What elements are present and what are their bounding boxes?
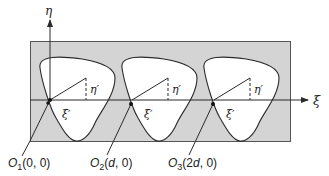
origin-label-1: O1(0, 0) [8,156,50,172]
origin-dot-3 [211,102,215,106]
origin-dot-2 [129,102,133,106]
leader-line-1b [22,141,30,156]
origin-dot-1 [48,98,52,102]
local-xi-label-2: ξ′ [144,108,153,121]
local-xi-label-1: ξ′ [62,108,71,121]
xi-axis-label: ξ [313,93,321,108]
local-eta-label-2: η′ [172,83,182,96]
eta-axis-label: η [45,4,53,18]
periodic-cell-diagram: η ξ η′ ξ′ η′ ξ′ η′ ξ′ O1(0, 0) O2(d, 0) … [0,0,329,176]
origin-label-2: O2(d, 0) [90,156,132,172]
origin-label-3: O3(2d, 0) [168,156,217,172]
local-eta-label-1: η′ [90,83,100,96]
origin-dot-1b [46,101,49,104]
local-xi-label-3: ξ′ [226,108,235,121]
local-eta-label-3: η′ [254,83,264,96]
